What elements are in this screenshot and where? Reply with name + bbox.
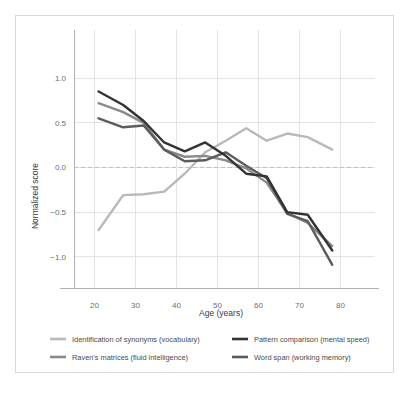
x-tick-label: 70 <box>295 301 304 310</box>
y-tick-label: 1.0 <box>55 74 67 83</box>
y-tick-label: −0.5 <box>50 208 66 217</box>
series-line-1 <box>99 128 333 230</box>
legend-label-1: Identification of synonyms (vocabulary) <box>72 335 200 344</box>
y-tick-label: −1.0 <box>50 253 66 262</box>
data-series-group <box>99 92 333 265</box>
x-tick-label: 30 <box>131 301 140 310</box>
y-axis-title: Normalized score <box>30 163 40 229</box>
series-line-4 <box>99 118 333 264</box>
y-tick-label: 0.0 <box>55 163 67 172</box>
legend-label-4: Word span (working memory) <box>254 353 351 362</box>
line-chart: 1.00.50.0−0.5−1.0 20304050607080 Normali… <box>16 16 393 372</box>
x-tick-label: 20 <box>90 301 99 310</box>
series-line-2 <box>99 103 333 246</box>
x-tick-label: 60 <box>254 301 263 310</box>
x-axis-title: Age (years) <box>199 308 243 318</box>
chart-legend: Identification of synonyms (vocabulary)P… <box>50 335 369 362</box>
chart-figure: 1.00.50.0−0.5−1.0 20304050607080 Normali… <box>15 15 394 373</box>
series-line-3 <box>99 92 333 251</box>
y-tick-label: 0.5 <box>55 119 67 128</box>
legend-label-3: Raven's matrices (fluid intelligence) <box>72 353 188 362</box>
x-tick-label: 80 <box>336 301 345 310</box>
y-axis-tick-labels: 1.00.50.0−0.5−1.0 <box>50 74 66 262</box>
x-tick-label: 40 <box>172 301 181 310</box>
legend-label-2: Pattern comparison (mental speed) <box>254 335 369 344</box>
